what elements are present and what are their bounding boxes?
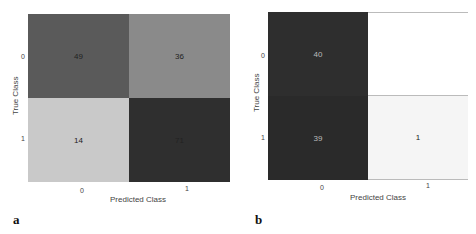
cell-true1-pred0: 14 <box>28 98 129 182</box>
matrix-grid-b: 40 39 1 <box>268 12 468 180</box>
x-axis-label: Predicted Class <box>110 195 166 204</box>
panel-label-b: b <box>255 212 262 228</box>
x-axis-label: Predicted Class <box>350 193 406 202</box>
x-tick-0: 0 <box>80 187 84 194</box>
y-tick-1: 1 <box>21 135 25 142</box>
confusion-matrix-b: 40 39 1 0 1 True Class 0 1 Predicted Cla… <box>238 0 476 234</box>
cell-true1-pred1: 71 <box>129 98 230 182</box>
cell-true1-pred1: 1 <box>368 96 468 180</box>
matrix-grid-a: 49 36 14 71 <box>28 14 230 182</box>
cell-true0-pred0: 49 <box>28 14 129 98</box>
y-tick-1: 1 <box>261 134 265 141</box>
y-axis-label: True Class <box>11 77 20 115</box>
cell-true0-pred1 <box>368 12 468 96</box>
confusion-matrix-a: 49 36 14 71 0 1 True Class 0 1 Predicted… <box>0 0 238 234</box>
panel-label-a: a <box>13 212 20 228</box>
cell-true0-pred0: 40 <box>268 12 368 96</box>
cell-true1-pred0: 39 <box>268 96 368 180</box>
y-axis-label: True Class <box>252 74 261 112</box>
y-tick-0: 0 <box>261 52 265 59</box>
x-tick-1: 1 <box>426 182 430 189</box>
x-tick-1: 1 <box>185 185 189 192</box>
y-tick-0: 0 <box>21 53 25 60</box>
cell-true0-pred1: 36 <box>129 14 230 98</box>
x-tick-0: 0 <box>320 184 324 191</box>
